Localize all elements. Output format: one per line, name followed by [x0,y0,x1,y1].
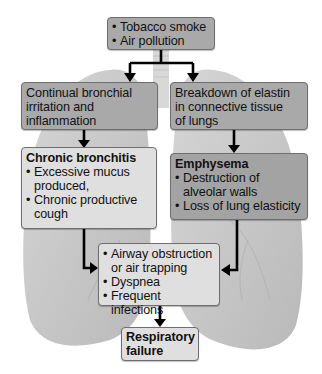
elastin-box: Breakdown of elastin in connective tissu… [170,82,308,130]
cause-item: Tobacco smoke [112,20,210,34]
failure-title: Respiratory [126,330,194,344]
arrow-head-icon [221,264,230,276]
arrow-head-icon [154,319,166,327]
arrow-head-icon [228,145,240,153]
irritation-text: irritation and [26,100,153,114]
failure-title: failure [126,344,194,358]
emphysema-title: Emphysema [175,157,303,171]
arrow-head-icon [90,262,98,274]
emphysema-item: Destruction of alveolar walls [175,171,303,199]
arrow-head-icon [124,73,136,82]
chronic-bronchitis-box: Chronic bronchitis Excessive mucus produ… [21,147,157,229]
bronchitis-item: Chronic productive cough [26,193,152,221]
elastin-text: in connective tissue [175,100,303,114]
irritation-text: Continual bronchial [26,86,153,100]
elastin-text: of lungs [175,114,303,128]
effect-item: Frequent infections [103,289,215,317]
arrow-head-icon [187,73,199,82]
respiratory-failure-box: Respiratory failure [121,327,199,361]
elastin-text: Breakdown of elastin [175,86,303,100]
bronchitis-title: Chronic bronchitis [26,151,152,165]
effects-box: Airway obstruction or air trapping Dyspn… [98,243,220,306]
causes-box: Tobacco smoke Air pollution [107,17,215,50]
emphysema-box: Emphysema Destruction of alveolar walls … [170,153,308,220]
emphysema-item: Loss of lung elasticity [175,199,303,213]
bronchitis-item: Excessive mucus produced, [26,165,152,193]
irritation-box: Continual bronchial irritation and infla… [21,82,158,130]
cause-item: Air pollution [112,34,210,48]
effect-item: Dyspnea [103,275,215,289]
effect-item: Airway obstruction or air trapping [103,247,215,275]
irritation-text: inflammation [26,114,153,128]
